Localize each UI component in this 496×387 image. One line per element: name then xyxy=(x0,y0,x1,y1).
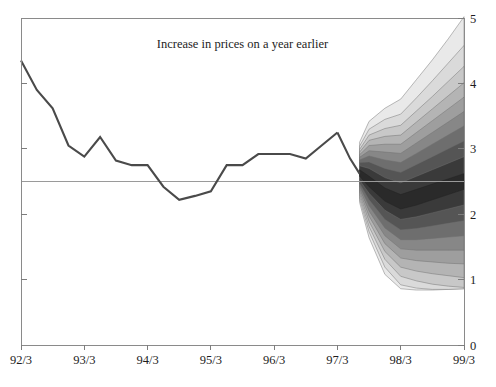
history-line-segment-2 xyxy=(337,132,359,173)
y-tick-label-4: 4 xyxy=(470,77,477,91)
fan-chart-figure: 92/393/394/395/396/397/398/399/3012345 I… xyxy=(0,0,496,387)
x-tick-label-98-3: 98/3 xyxy=(390,353,412,367)
projection-fan-bands xyxy=(360,17,464,290)
x-tick-label-95-3: 95/3 xyxy=(200,353,222,367)
chart-canvas: 92/393/394/395/396/397/398/399/3012345 I… xyxy=(0,0,496,387)
history-line-segment-1 xyxy=(21,61,337,200)
x-tick-label-96-3: 96/3 xyxy=(263,353,285,367)
y-tick-label-3: 3 xyxy=(470,142,476,156)
history-series-line xyxy=(21,61,360,200)
x-tick-label-92-3: 92/3 xyxy=(10,353,32,367)
x-tick-label-93-3: 93/3 xyxy=(73,353,95,367)
chart-title: Increase in prices on a year earlier xyxy=(157,37,329,51)
y-tick-label-2: 2 xyxy=(470,208,476,222)
x-tick-label-99-3: 99/3 xyxy=(453,353,475,367)
y-tick-label-0: 0 xyxy=(470,339,476,353)
x-tick-label-97-3: 97/3 xyxy=(326,353,348,367)
y-tick-label-5: 5 xyxy=(470,12,476,26)
x-tick-label-94-3: 94/3 xyxy=(136,353,158,367)
y-tick-label-1: 1 xyxy=(470,273,476,287)
